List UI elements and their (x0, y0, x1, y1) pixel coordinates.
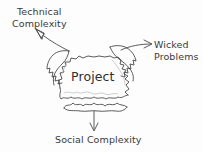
label-wicked-problems-line1: Wicked (154, 39, 199, 51)
left-wing-shape (47, 51, 69, 85)
arrow-to-social-complexity (90, 111, 98, 131)
arrow-to-wicked-problems (121, 40, 152, 50)
label-wicked-problems-line2: Problems (154, 51, 199, 63)
label-technical-complexity: Technical Complexity (12, 6, 67, 29)
label-project: Project (71, 71, 114, 83)
label-social-complexity: Social Complexity (55, 134, 142, 146)
diagram-canvas: Technical Complexity Wicked Problems Soc… (0, 0, 203, 152)
label-technical-complexity-line1: Technical (12, 6, 67, 18)
bottom-wave-shape (64, 103, 127, 111)
label-wicked-problems: Wicked Problems (154, 39, 199, 62)
label-project-text: Project (71, 71, 114, 83)
label-social-complexity-line1: Social Complexity (55, 134, 142, 146)
arrow-to-technical-complexity (36, 29, 69, 51)
label-technical-complexity-line2: Complexity (12, 18, 67, 30)
